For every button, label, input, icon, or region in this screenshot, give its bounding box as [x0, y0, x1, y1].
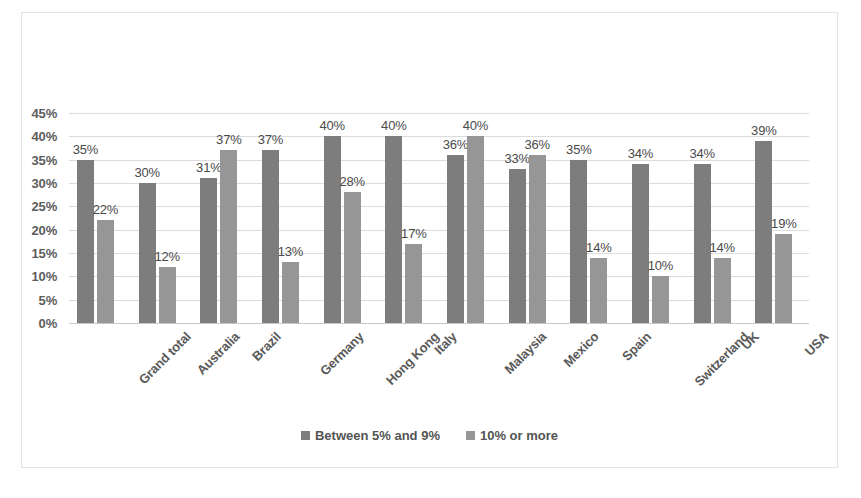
bar-group: 31%37% [192, 113, 254, 323]
bar-value-label: 13% [278, 244, 303, 259]
bar-group: 30%12% [131, 113, 193, 323]
bar-value-label: 37% [216, 132, 241, 147]
bar-value-label: 34% [628, 146, 653, 161]
bar-value-label: 31% [196, 160, 221, 175]
bar-group: 34%10% [624, 113, 686, 323]
legend-label: Between 5% and 9% [315, 428, 440, 443]
bar-group: 39%19% [747, 113, 809, 323]
bar-value-label: 37% [258, 132, 283, 147]
bar-group: 40%28% [316, 113, 378, 323]
plot-area: 0%5%10%15%20%25%30%35%40%45%Grand total3… [69, 113, 809, 323]
y-axis-tick-label: 25% [13, 199, 57, 214]
bar-value-label: 19% [771, 216, 796, 231]
bar-value-label: 40% [381, 118, 406, 133]
bar[interactable] [220, 150, 237, 323]
x-axis-category-label: Malaysia [501, 329, 549, 377]
x-axis-category-label: Mexico [560, 329, 601, 370]
bar[interactable] [775, 234, 792, 323]
bar[interactable] [529, 155, 546, 323]
x-axis-category-label: Brazil [249, 329, 284, 364]
y-axis-tick-label: 5% [13, 292, 57, 307]
bar[interactable] [159, 267, 176, 323]
x-axis-category-label: Spain [619, 329, 654, 364]
bar-group: 34%14% [686, 113, 748, 323]
bar-value-label: 14% [709, 240, 734, 255]
bar[interactable] [344, 192, 361, 323]
bar-value-label: 35% [566, 142, 591, 157]
legend-item[interactable]: 10% or more [466, 428, 558, 443]
bar-group: 33%36% [501, 113, 563, 323]
axis-baseline [69, 323, 809, 324]
y-axis-tick-label: 40% [13, 129, 57, 144]
bar-value-label: 39% [751, 123, 776, 138]
bar-value-label: 34% [689, 146, 714, 161]
bar-group: 35%14% [562, 113, 624, 323]
y-axis-tick-label: 0% [13, 316, 57, 331]
bar[interactable] [467, 136, 484, 323]
x-axis-category-label: Australia [193, 329, 242, 378]
chart-legend: Between 5% and 9%10% or more [22, 428, 837, 443]
chart-frame: 0%5%10%15%20%25%30%35%40%45%Grand total3… [21, 12, 838, 468]
bar[interactable] [509, 169, 526, 323]
bar[interactable] [97, 220, 114, 323]
bar-value-label: 28% [339, 174, 364, 189]
bar[interactable] [324, 136, 341, 323]
legend-swatch-icon [466, 431, 475, 440]
bar[interactable] [262, 150, 279, 323]
bar[interactable] [694, 164, 711, 323]
x-axis-category-label: Grand total [135, 329, 193, 387]
bar-group: 40%17% [377, 113, 439, 323]
bar[interactable] [405, 244, 422, 323]
bar-value-label: 36% [443, 137, 468, 152]
bar-value-label: 30% [134, 165, 159, 180]
y-axis-tick-label: 45% [13, 106, 57, 121]
bar-group: 35%22% [69, 113, 131, 323]
legend-item[interactable]: Between 5% and 9% [301, 428, 440, 443]
bar-value-label: 10% [648, 258, 673, 273]
y-axis-tick-label: 30% [13, 176, 57, 191]
y-axis-tick-label: 35% [13, 152, 57, 167]
bar[interactable] [447, 155, 464, 323]
y-axis-tick-label: 10% [13, 269, 57, 284]
y-axis-tick-label: 20% [13, 222, 57, 237]
bar-value-label: 12% [154, 249, 179, 264]
bar[interactable] [755, 141, 772, 323]
bar[interactable] [632, 164, 649, 323]
legend-label: 10% or more [480, 428, 558, 443]
x-axis-category-label: Hong Kong [382, 329, 441, 388]
bar[interactable] [385, 136, 402, 323]
bar-value-label: 35% [73, 142, 98, 157]
bar[interactable] [714, 258, 731, 323]
bar-value-label: 14% [586, 240, 611, 255]
bar[interactable] [570, 160, 587, 323]
bar[interactable] [652, 276, 669, 323]
bar-value-label: 17% [401, 226, 426, 241]
bar-value-label: 40% [319, 118, 344, 133]
bar[interactable] [282, 262, 299, 323]
bar-value-label: 40% [463, 118, 488, 133]
bar[interactable] [77, 160, 94, 323]
bar-group: 37%13% [254, 113, 316, 323]
x-axis-category-label: Germany [317, 329, 366, 378]
bar-group: 36%40% [439, 113, 501, 323]
bar-value-label: 33% [504, 151, 529, 166]
x-axis-category-label: USA [802, 329, 832, 359]
legend-swatch-icon [301, 431, 310, 440]
bar[interactable] [139, 183, 156, 323]
y-axis-tick-label: 15% [13, 246, 57, 261]
bar[interactable] [590, 258, 607, 323]
bar-value-label: 36% [524, 137, 549, 152]
bar[interactable] [200, 178, 217, 323]
bar-value-label: 22% [93, 202, 118, 217]
